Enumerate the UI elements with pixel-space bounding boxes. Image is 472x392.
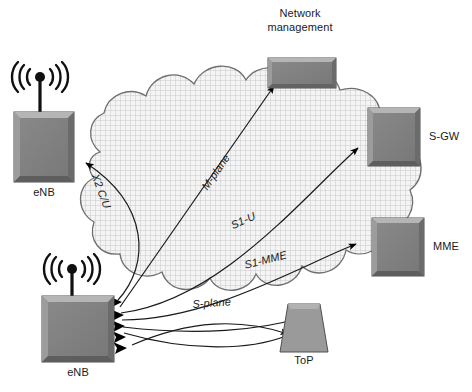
- node-s-gw[interactable]: [368, 108, 420, 166]
- network-management-line1: Network: [279, 7, 320, 19]
- node-label-s-gw: S-GW: [429, 130, 459, 142]
- link-bundle-b: [124, 333, 286, 347]
- node-top[interactable]: [280, 304, 328, 352]
- node-enb-top[interactable]: [12, 62, 74, 182]
- node-label-enb-bottom: eNB: [56, 366, 100, 378]
- node-label-network-management: Network management: [252, 6, 348, 34]
- node-label-enb-top: eNB: [22, 186, 66, 198]
- diagram-canvas: Network management S-GW MME ToP eNB eNB …: [0, 0, 472, 392]
- node-label-top: ToP: [282, 354, 326, 366]
- node-enb-bottom[interactable]: [42, 254, 114, 362]
- diagram-graphics-layer: [0, 0, 472, 392]
- network-management-line2: management: [267, 21, 332, 33]
- node-mme[interactable]: [372, 218, 424, 276]
- node-label-mme: MME: [433, 240, 459, 252]
- node-network-management[interactable]: [268, 58, 336, 88]
